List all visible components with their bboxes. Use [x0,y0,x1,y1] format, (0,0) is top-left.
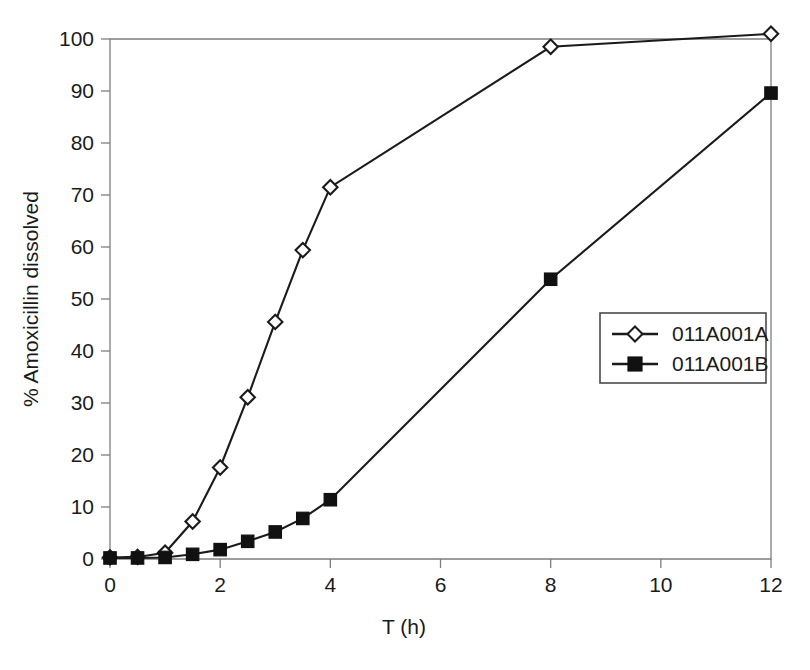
x-tick-label: 6 [435,573,447,596]
data-point-square [186,548,198,560]
x-axis-tick-group [110,559,771,568]
data-point-diamond [268,315,282,329]
data-point-square [269,526,281,538]
data-point-square [297,512,309,524]
legend-label: 011A001A [672,322,769,345]
data-point-square [131,552,143,564]
data-point-square [765,87,777,99]
data-point-square [242,535,254,547]
y-axis-title: % Amoxicillin dissolved [19,191,42,407]
x-tick-label: 8 [545,573,557,596]
data-point-diamond [296,243,310,257]
data-point-square [214,543,226,555]
series-line-011a001a [110,34,771,558]
data-point-square [544,273,556,285]
data-point-diamond [213,460,227,474]
y-tick-label: 70 [71,183,94,206]
series-group [103,27,778,565]
x-axis-title: T (h) [382,615,426,638]
y-tick-label: 10 [71,495,94,518]
y-tick-label: 100 [59,27,94,50]
y-axis-tick-labels: 0102030405060708090100 [59,27,94,570]
y-tick-label: 60 [71,235,94,258]
y-tick-label: 50 [71,287,94,310]
chart-legend: 011A001A011A001B [600,313,769,383]
data-point-diamond [543,40,557,54]
data-point-diamond [323,180,337,194]
data-point-square [324,494,336,506]
x-axis-tick-labels: 024681012 [104,573,783,596]
x-tick-label: 10 [649,573,672,596]
legend-marker-square [628,357,642,371]
y-tick-label: 20 [71,443,94,466]
data-point-square [104,552,116,564]
x-tick-label: 12 [759,573,782,596]
x-tick-label: 4 [324,573,336,596]
y-tick-label: 0 [82,547,94,570]
x-tick-label: 0 [104,573,116,596]
y-axis-tick-group [101,39,110,559]
x-tick-label: 2 [214,573,226,596]
legend-label: 011A001B [672,352,769,375]
chart-figure: 0102030405060708090100 024681012 % Amoxi… [0,0,810,670]
y-tick-label: 80 [71,131,94,154]
data-point-square [159,551,171,563]
y-tick-label: 30 [71,391,94,414]
y-tick-label: 90 [71,79,94,102]
y-tick-label: 40 [71,339,94,362]
data-point-diamond [241,390,255,404]
dissolution-line-chart: 0102030405060708090100 024681012 % Amoxi… [0,0,810,670]
